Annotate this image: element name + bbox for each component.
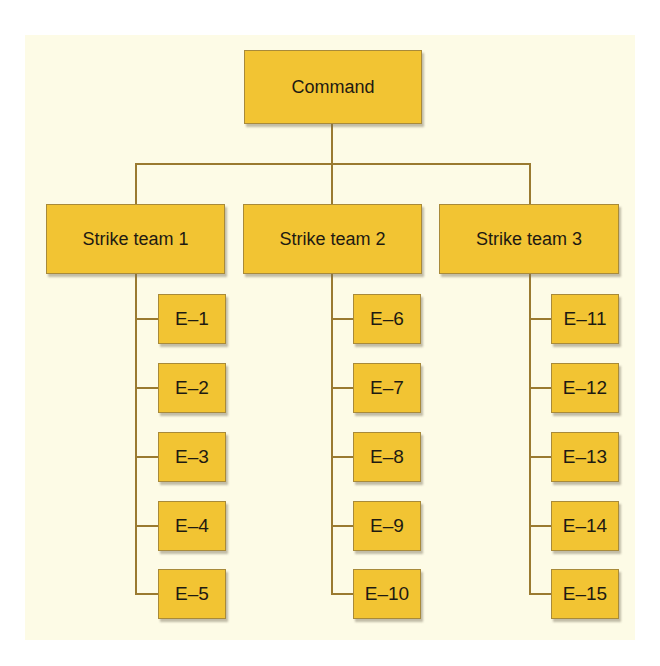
node-element: E–6 [353,294,421,344]
node-strike-team-1: Strike team 1 [46,204,225,274]
branch-e8 [331,456,353,458]
branch-e5 [135,593,158,595]
connector-team1-up [135,163,137,204]
branch-e2 [135,387,158,389]
branch-e6 [331,318,353,320]
branch-e10 [331,593,353,595]
node-element: E–8 [353,432,421,482]
branch-e4 [135,525,158,527]
node-element: E–3 [158,432,226,482]
node-strike-team-3: Strike team 3 [439,204,619,274]
node-strike-team-2: Strike team 2 [243,204,422,274]
branch-e13 [529,456,551,458]
branch-e14 [529,525,551,527]
team2-spine [331,274,333,594]
node-element: E–5 [158,569,226,619]
node-command: Command [244,50,422,124]
branch-e11 [529,318,551,320]
diagram-background [25,35,635,640]
node-element: E–1 [158,294,226,344]
node-element: E–9 [353,501,421,551]
branch-e15 [529,593,551,595]
node-element: E–2 [158,363,226,413]
branch-e7 [331,387,353,389]
team3-spine [529,274,531,594]
branch-e1 [135,318,158,320]
branch-e12 [529,387,551,389]
node-element: E–7 [353,363,421,413]
node-element: E–15 [551,569,619,619]
node-element: E–4 [158,501,226,551]
branch-e3 [135,456,158,458]
node-element: E–11 [551,294,619,344]
node-element: E–14 [551,501,619,551]
branch-e9 [331,525,353,527]
node-element: E–13 [551,432,619,482]
team1-spine [135,274,137,594]
node-element: E–12 [551,363,619,413]
connector-team3-up [529,163,531,204]
connector-horizontal [135,163,531,165]
node-element: E–10 [353,569,421,619]
